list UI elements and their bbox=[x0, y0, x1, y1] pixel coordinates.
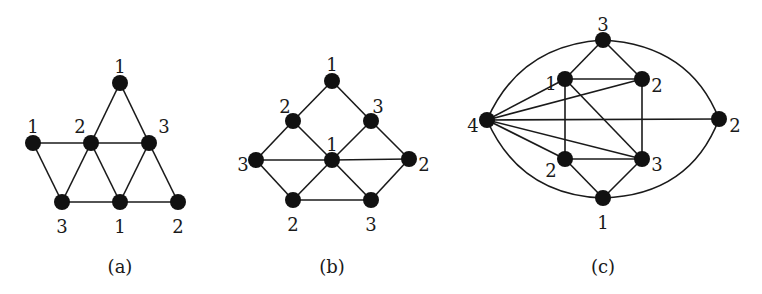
edge-c-br bbox=[332, 160, 371, 200]
vertex-label: 3 bbox=[237, 154, 248, 175]
edge-r-bm bbox=[120, 143, 149, 202]
vertex-label: 1 bbox=[114, 216, 125, 237]
vertex-t bbox=[324, 73, 340, 89]
vertex-l bbox=[248, 152, 264, 168]
graph-coloring-figure: 1123312(a) 12331223(b) 31242231(c) bbox=[0, 0, 762, 294]
vertex-label: 3 bbox=[365, 214, 376, 235]
edge-l-bl bbox=[256, 160, 293, 200]
vertex-lr bbox=[634, 151, 650, 167]
vertex-bl bbox=[285, 192, 301, 208]
vertex-bl bbox=[54, 194, 70, 210]
edge-ur-c bbox=[332, 121, 371, 160]
vertex-bm bbox=[112, 194, 128, 210]
graph-b: 12331223(b) bbox=[237, 54, 429, 277]
edge-ur-r bbox=[371, 121, 409, 159]
vertex-label: 2 bbox=[729, 115, 740, 136]
vertex-ur bbox=[634, 71, 650, 87]
vertex-b bbox=[595, 190, 611, 206]
vertex-label: 3 bbox=[651, 154, 662, 175]
vertex-label: 2 bbox=[287, 214, 298, 235]
edge-t-ur bbox=[332, 81, 371, 121]
vertex-label: 4 bbox=[467, 115, 478, 136]
vertex-label: 1 bbox=[545, 73, 556, 94]
edge-m-bl bbox=[62, 143, 91, 202]
edge-t-ur bbox=[603, 40, 642, 79]
edge-c-bl bbox=[293, 160, 332, 200]
vertex-t bbox=[112, 75, 128, 91]
edge-c-r bbox=[332, 159, 409, 160]
edge-r-br bbox=[149, 143, 178, 202]
edge-t-ul bbox=[293, 81, 332, 121]
graph-a: 1123312(a) bbox=[25, 56, 186, 277]
vertex-r bbox=[141, 135, 157, 151]
edge-ll-b bbox=[565, 159, 603, 198]
vertex-label: 1 bbox=[326, 134, 337, 155]
vertex-r bbox=[401, 151, 417, 167]
vertex-l bbox=[25, 135, 41, 151]
edge-r-br bbox=[371, 159, 409, 200]
vertex-label: 2 bbox=[545, 160, 556, 181]
vertex-label: 1 bbox=[114, 56, 125, 77]
graph-c: 31242231(c) bbox=[467, 14, 740, 277]
vertex-label: 3 bbox=[597, 14, 608, 35]
vertex-label: 2 bbox=[651, 75, 662, 96]
edge-l-bl bbox=[33, 143, 62, 202]
edge-t-m bbox=[91, 83, 120, 143]
vertex-label: 2 bbox=[418, 154, 429, 175]
vertex-label: 2 bbox=[172, 216, 183, 237]
vertex-l bbox=[479, 112, 495, 128]
vertex-label: 3 bbox=[56, 216, 67, 237]
vertex-label: 1 bbox=[326, 54, 337, 75]
edge-m-bm bbox=[91, 143, 120, 202]
vertex-ll bbox=[557, 151, 573, 167]
edge-ul-l bbox=[256, 121, 293, 160]
vertex-label: 1 bbox=[27, 116, 38, 137]
subfigure-caption: (b) bbox=[319, 256, 345, 277]
vertex-r bbox=[711, 111, 727, 127]
subfigure-caption: (c) bbox=[591, 256, 615, 277]
vertex-label: 2 bbox=[279, 96, 290, 117]
edge-t-r bbox=[120, 83, 149, 143]
vertex-br bbox=[170, 194, 186, 210]
vertex-label: 2 bbox=[74, 116, 85, 137]
vertex-label: 3 bbox=[158, 116, 169, 137]
edge-lr-b bbox=[603, 159, 642, 198]
vertex-ul bbox=[557, 71, 573, 87]
subfigure-caption: (a) bbox=[108, 256, 133, 277]
vertex-m bbox=[83, 135, 99, 151]
vertex-label: 3 bbox=[372, 96, 383, 117]
vertex-br bbox=[363, 192, 379, 208]
vertex-label: 1 bbox=[597, 212, 608, 233]
edge-l-ll bbox=[487, 120, 565, 159]
